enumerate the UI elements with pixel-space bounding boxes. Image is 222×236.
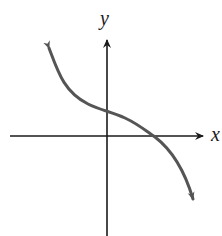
y-axis-label: y bbox=[100, 8, 109, 28]
function-curve bbox=[49, 48, 193, 199]
graph-canvas bbox=[0, 0, 222, 236]
x-axis-label: x bbox=[211, 124, 220, 144]
